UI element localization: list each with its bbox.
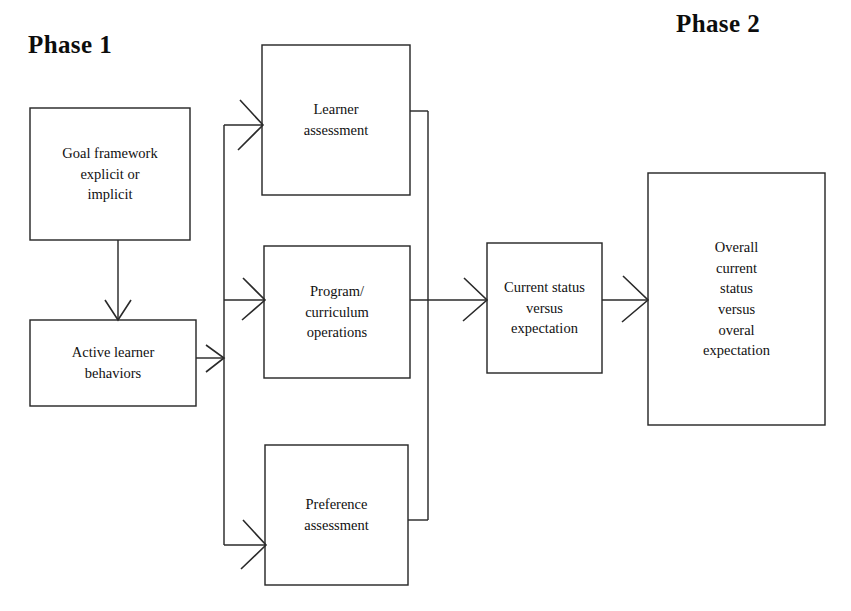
arrowhead-bus-to-program-curriculum-icon: [242, 278, 265, 320]
box-program-curriculum-operations: [264, 246, 410, 378]
box-preference-assessment: [265, 445, 408, 585]
arrowhead-current-to-overall-icon: [622, 276, 648, 322]
box-active-learner-behaviors: [30, 320, 196, 406]
diagram-canvas: Phase 1 Phase 2 Goal framework explicit …: [0, 0, 851, 611]
box-learner-assessment: [262, 45, 410, 195]
phase-2-title: Phase 2: [676, 10, 760, 38]
phase-1-title: Phase 1: [28, 31, 112, 59]
diagram-svg: [0, 0, 851, 611]
box-goal-framework: [30, 108, 190, 240]
box-current-status: [487, 243, 602, 373]
box-overall-status: [648, 173, 825, 425]
